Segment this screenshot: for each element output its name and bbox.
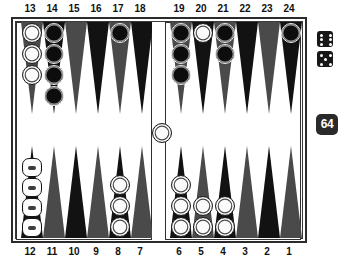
checker-white-point-8[interactable] (110, 217, 130, 237)
point-triangle-10 (65, 146, 87, 238)
point-7[interactable] (131, 146, 153, 238)
checker-black-point-19[interactable] (171, 65, 191, 85)
point-label-7: 7 (128, 246, 152, 257)
point-triangle-11 (43, 146, 65, 238)
die-pip (329, 43, 332, 46)
checker-white-bar[interactable] (152, 123, 172, 143)
checker-white-point-6[interactable] (171, 217, 191, 237)
backgammon-screenshot: 131415161718192021222324 121110987654321… (0, 0, 341, 268)
point-2[interactable] (258, 146, 280, 238)
checker-white-point-6[interactable] (171, 175, 191, 195)
point-10[interactable] (65, 146, 87, 238)
checker-black-point-19[interactable] (171, 44, 191, 64)
point-11[interactable] (43, 146, 65, 238)
point-17[interactable] (109, 22, 131, 114)
point-triangle-23 (258, 22, 280, 114)
doubling-cube[interactable]: 64 (316, 114, 338, 135)
point-label-20: 20 (189, 3, 213, 14)
point-14[interactable] (43, 22, 65, 114)
point-triangle-2 (258, 146, 280, 238)
point-label-24: 24 (277, 3, 301, 14)
checker-white-point-5[interactable] (193, 196, 213, 216)
point-12[interactable] (21, 146, 43, 238)
point-15[interactable] (65, 22, 87, 114)
backgammon-board[interactable] (11, 17, 307, 243)
point-24[interactable] (280, 22, 302, 114)
point-label-15: 15 (62, 3, 86, 14)
die-pip (329, 38, 332, 41)
checker-black-point-19[interactable] (171, 23, 191, 43)
point-label-18: 18 (128, 3, 152, 14)
point-label-13: 13 (18, 3, 42, 14)
checker-white-point-6[interactable] (171, 196, 191, 216)
checker-white-point-12[interactable] (22, 178, 42, 197)
checker-black-point-24[interactable] (281, 23, 301, 43)
checker-white-point-4[interactable] (215, 196, 235, 216)
point-23[interactable] (258, 22, 280, 114)
bar[interactable] (152, 22, 165, 240)
point-triangle-3 (236, 146, 258, 238)
point-triangle-1 (280, 146, 302, 238)
die-pip (324, 58, 327, 61)
point-triangle-7 (131, 146, 153, 238)
point-19[interactable] (170, 22, 192, 114)
checker-black-point-14[interactable] (44, 23, 64, 43)
point-18[interactable] (131, 22, 153, 114)
point-13[interactable] (21, 22, 43, 114)
point-label-21: 21 (211, 3, 235, 14)
die-pip (320, 43, 323, 46)
checker-white-point-20[interactable] (193, 23, 213, 43)
checker-white-point-13[interactable] (22, 23, 42, 43)
checker-white-point-8[interactable] (110, 196, 130, 216)
point-label-3: 3 (233, 246, 257, 257)
point-label-11: 11 (40, 246, 64, 257)
point-21[interactable] (214, 22, 236, 114)
checker-black-point-21[interactable] (215, 23, 235, 43)
checker-black-point-17[interactable] (110, 23, 130, 43)
die-two[interactable] (317, 51, 333, 67)
point-label-5: 5 (189, 246, 213, 257)
checker-white-point-12[interactable] (22, 218, 42, 237)
checker-black-point-14[interactable] (44, 86, 64, 106)
checker-white-point-5[interactable] (193, 217, 213, 237)
bar-checker-white[interactable] (154, 123, 174, 143)
point-1[interactable] (280, 146, 302, 238)
die-pip (320, 63, 323, 66)
checker-black-point-21[interactable] (215, 44, 235, 64)
point-triangle-22 (236, 22, 258, 114)
die-pip (329, 63, 332, 66)
point-16[interactable] (87, 22, 109, 114)
point-label-10: 10 (62, 246, 86, 257)
point-22[interactable] (236, 22, 258, 114)
point-5[interactable] (192, 146, 214, 238)
point-label-4: 4 (211, 246, 235, 257)
point-label-1: 1 (277, 246, 301, 257)
point-9[interactable] (87, 146, 109, 238)
point-8[interactable] (109, 146, 131, 238)
checker-white-point-13[interactable] (22, 65, 42, 85)
point-4[interactable] (214, 146, 236, 238)
point-triangle-9 (87, 146, 109, 238)
die-pip (320, 38, 323, 41)
checker-white-point-12[interactable] (22, 158, 42, 177)
point-label-12: 12 (18, 246, 42, 257)
point-triangle-18 (131, 22, 153, 114)
point-label-17: 17 (106, 3, 130, 14)
die-pip (320, 54, 323, 57)
die-pip (329, 34, 332, 37)
point-triangle-16 (87, 22, 109, 114)
checker-white-point-12[interactable] (22, 198, 42, 217)
point-label-22: 22 (233, 3, 257, 14)
die-one[interactable] (317, 31, 333, 47)
point-label-9: 9 (84, 246, 108, 257)
point-label-19: 19 (167, 3, 191, 14)
point-label-23: 23 (255, 3, 279, 14)
point-20[interactable] (192, 22, 214, 114)
checker-black-point-14[interactable] (44, 44, 64, 64)
checker-white-point-4[interactable] (215, 217, 235, 237)
point-3[interactable] (236, 146, 258, 238)
checker-black-point-14[interactable] (44, 65, 64, 85)
point-6[interactable] (170, 146, 192, 238)
checker-white-point-8[interactable] (110, 175, 130, 195)
checker-white-point-13[interactable] (22, 44, 42, 64)
